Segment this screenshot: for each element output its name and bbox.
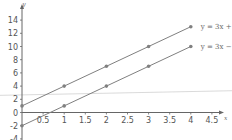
x-axis-name: x xyxy=(224,114,228,121)
data-point xyxy=(105,65,109,69)
reference-line xyxy=(0,91,232,96)
x-tick-label: 2.5 xyxy=(121,116,134,125)
data-point xyxy=(20,124,24,128)
series-label: y = 3x + 1 xyxy=(200,23,232,31)
x-tick-label: 4.5 xyxy=(206,116,219,125)
y-tick-label: 10 xyxy=(8,43,18,52)
data-point xyxy=(20,104,24,108)
x-tick-label: 1 xyxy=(62,116,67,125)
x-tick-label: 3.5 xyxy=(163,116,176,125)
x-tick-label: 2 xyxy=(104,116,109,125)
series-upper: y = 3x + 1 xyxy=(20,23,232,108)
line-chart: yx y = 3x + 1y = 3x − 2 -4-2024681012140… xyxy=(0,0,232,140)
y-tick-label: 2 xyxy=(13,95,18,104)
y-tick-label: -4 xyxy=(10,135,18,140)
series-label: y = 3x − 2 xyxy=(200,43,232,51)
data-point xyxy=(62,84,66,88)
y-tick-label: 8 xyxy=(13,56,18,65)
y-tick-label: 14 xyxy=(8,16,18,25)
reference-line-layer xyxy=(0,91,232,96)
x-tick-label: 0.5 xyxy=(37,116,50,125)
data-point xyxy=(147,65,151,69)
y-tick-label: 12 xyxy=(8,29,18,38)
data-point xyxy=(147,45,151,49)
x-tick-label: 3 xyxy=(146,116,151,125)
data-point xyxy=(189,25,193,29)
data-point xyxy=(62,104,66,108)
data-point xyxy=(105,84,109,88)
series-layer: y = 3x + 1y = 3x − 2 xyxy=(20,23,232,127)
x-tick-label: 4 xyxy=(188,116,193,125)
y-tick-label: 6 xyxy=(13,69,18,78)
tick-labels: -4-2024681012140.511.522.533.544.5 xyxy=(8,16,218,140)
y-tick-label: 0 xyxy=(13,109,18,118)
data-point xyxy=(189,45,193,49)
x-tick-label: 1.5 xyxy=(79,116,92,125)
y-tick-label: -2 xyxy=(10,122,18,131)
y-tick-label: 4 xyxy=(13,82,18,91)
y-axis-name: y xyxy=(21,0,26,8)
